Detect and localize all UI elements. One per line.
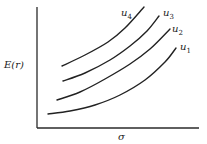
- curve-label-u4: u4: [121, 7, 132, 21]
- curve-label-u1: u1: [180, 41, 191, 55]
- curve-labels: u1u2u3u4: [121, 7, 191, 55]
- curve-u3: [63, 16, 159, 81]
- indifference-curve-chart: E(r) σ u1u2u3u4: [0, 0, 207, 144]
- curve-u1: [48, 48, 176, 114]
- y-axis-label: E(r): [3, 59, 24, 70]
- curve-label-u2: u2: [172, 23, 183, 37]
- curve-label-u3: u3: [163, 7, 174, 21]
- x-axis-label: σ: [118, 131, 126, 142]
- curve-u2: [57, 29, 170, 100]
- curves: [48, 7, 176, 114]
